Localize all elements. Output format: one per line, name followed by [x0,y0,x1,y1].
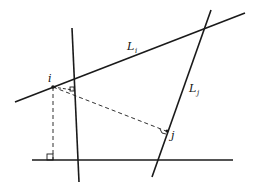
label-line-l-j: L [188,82,196,95]
point-j [166,130,169,133]
line-l-i [15,13,245,102]
label-line-l-i-subscript: i [135,47,137,55]
label-line-l-i: L [126,40,134,53]
right-angle-mark-j [160,129,166,134]
line-l-j [152,10,211,177]
point-i [51,85,55,89]
label-point-i: i [48,72,52,85]
right-angle-mark-horizontal [47,154,53,160]
right-angle-mark-vertical [70,87,74,91]
geometry-diagram: i j L i L j [0,0,259,189]
dashed-line-i-to-j [53,87,166,131]
vertical-line [72,28,79,182]
